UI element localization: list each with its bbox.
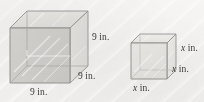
- large-cube-width-label: 9 in.: [30, 88, 47, 98]
- small-cube-height-unit: in.: [188, 43, 198, 53]
- small-cube-width-unit: in.: [140, 83, 150, 93]
- large-cube-width-value: 9: [30, 87, 35, 97]
- small-cube-width-value: x: [133, 83, 137, 93]
- small-cube-height-value: x: [181, 43, 185, 53]
- small-cube-width-label: x in.: [133, 84, 150, 94]
- small-cube-depth-unit: in.: [179, 64, 189, 74]
- geometry-figure: 9 in. 9 in. 9 in. x in. x in. x in.: [0, 0, 204, 102]
- large-cube-height-value: 9: [92, 32, 97, 42]
- large-cube-depth-label: 9 in.: [78, 72, 95, 82]
- small-cube-depth-value: x: [172, 64, 176, 74]
- small-cube-height-label: x in.: [181, 44, 198, 54]
- small-cube-depth-label: x in.: [172, 65, 189, 75]
- large-cube-height-label: 9 in.: [92, 33, 109, 43]
- large-cube-depth-unit: in.: [85, 71, 95, 81]
- large-cube-depth-value: 9: [78, 71, 83, 81]
- large-cube-width-unit: in.: [37, 87, 47, 97]
- large-cube-height-unit: in.: [99, 32, 109, 42]
